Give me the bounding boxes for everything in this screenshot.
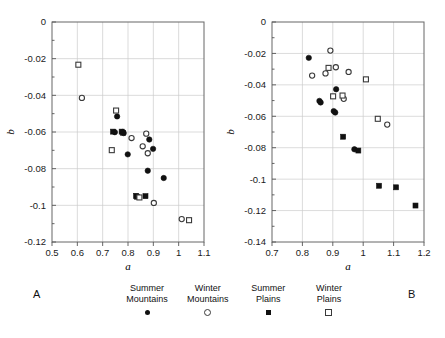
scatter-plot-panel-b: 0.70.80.911.11.20-0.02-0.04-0.06-0.08-0.… bbox=[222, 0, 445, 275]
filled-circle-glyph-icon bbox=[145, 310, 150, 315]
figure-container: 0.50.60.70.80.911.10-0.02-0.04-0.06-0.08… bbox=[0, 0, 445, 338]
data-point bbox=[394, 185, 399, 190]
x-tick-label: 0.9 bbox=[326, 247, 339, 258]
legend-entry: WinterPlains bbox=[300, 283, 358, 317]
data-point bbox=[375, 116, 380, 121]
data-point bbox=[377, 183, 382, 188]
legend-label-line2: Plains bbox=[256, 294, 281, 305]
x-tick-label: 1.2 bbox=[417, 247, 430, 258]
data-point bbox=[385, 122, 390, 127]
x-tick-label: 0.8 bbox=[121, 247, 134, 258]
data-point bbox=[333, 87, 338, 92]
data-point bbox=[323, 71, 328, 76]
legend-label-line1: Summer bbox=[130, 283, 164, 294]
legend-label-line1: Summer bbox=[251, 283, 285, 294]
y-tick-label: -0.12 bbox=[244, 205, 266, 216]
data-point bbox=[346, 69, 351, 74]
x-tick-label: 0.8 bbox=[296, 247, 309, 258]
data-point bbox=[179, 216, 184, 221]
figure-legend: SummerMountainsWinterMountainsSummerPlai… bbox=[118, 283, 358, 317]
x-axis-title: a bbox=[125, 260, 131, 272]
legend-label-line2: Plains bbox=[317, 294, 342, 305]
data-point bbox=[340, 93, 345, 98]
data-point bbox=[187, 218, 192, 223]
data-point bbox=[114, 114, 119, 119]
filled-square-glyph-icon bbox=[266, 310, 271, 315]
data-point bbox=[145, 151, 150, 156]
legend-label-line2: Mountains bbox=[187, 294, 229, 305]
data-point bbox=[109, 148, 114, 153]
y-axis-title: b bbox=[4, 129, 16, 135]
data-point bbox=[356, 148, 361, 153]
x-tick-label: 0.9 bbox=[147, 247, 160, 258]
data-point bbox=[333, 110, 338, 115]
x-tick-label: 0.6 bbox=[71, 247, 84, 258]
data-point bbox=[76, 62, 81, 67]
data-point bbox=[341, 134, 346, 139]
legend-entry: SummerMountains bbox=[118, 283, 176, 317]
series-winter-plains bbox=[76, 62, 192, 222]
y-tick-label: -0.08 bbox=[24, 163, 46, 174]
legend-label-line1: Winter bbox=[195, 283, 221, 294]
data-point bbox=[151, 200, 156, 205]
data-point bbox=[140, 144, 145, 149]
series-summer-mountains bbox=[112, 114, 166, 181]
open-circle-glyph-icon bbox=[204, 309, 211, 316]
data-point bbox=[79, 95, 84, 100]
legend-marker-filled-circle-icon bbox=[142, 307, 152, 317]
x-tick-label: 0.7 bbox=[96, 247, 109, 258]
data-point bbox=[137, 195, 142, 200]
y-tick-label: -0.02 bbox=[24, 53, 46, 64]
x-tick-label: 1.1 bbox=[197, 247, 210, 258]
y-tick-label: -0.1 bbox=[30, 200, 46, 211]
y-tick-label: 0 bbox=[261, 16, 266, 27]
plot-b-svg: 0.70.80.911.11.20-0.02-0.04-0.06-0.08-0.… bbox=[222, 0, 445, 275]
data-point bbox=[129, 135, 134, 140]
scatter-plot-panel-a: 0.50.60.70.80.911.10-0.02-0.04-0.06-0.08… bbox=[0, 0, 222, 275]
data-point bbox=[331, 94, 336, 99]
series-winter-mountains bbox=[79, 95, 184, 221]
data-point bbox=[326, 65, 331, 70]
x-tick-label: 0.7 bbox=[265, 247, 278, 258]
y-tick-label: -0.14 bbox=[244, 236, 266, 247]
data-point bbox=[413, 203, 418, 208]
x-axis-title: a bbox=[345, 260, 351, 272]
data-point bbox=[328, 48, 333, 53]
data-point bbox=[147, 137, 152, 142]
legend-marker-open-circle-icon bbox=[203, 307, 213, 317]
y-axis-title: b bbox=[224, 129, 236, 135]
y-tick-label: 0 bbox=[41, 16, 46, 27]
open-square-glyph-icon bbox=[325, 309, 332, 316]
data-point bbox=[145, 168, 150, 173]
legend-marker-filled-square-icon bbox=[263, 307, 273, 317]
x-tick-label: 1 bbox=[176, 247, 181, 258]
series-winter-mountains bbox=[310, 48, 390, 127]
data-point bbox=[144, 131, 149, 136]
data-point bbox=[318, 100, 323, 105]
legend-label-line1: Winter bbox=[316, 283, 342, 294]
data-point bbox=[125, 152, 130, 157]
y-tick-label: -0.12 bbox=[24, 236, 46, 247]
data-point bbox=[333, 65, 338, 70]
legend-label-line2: Mountains bbox=[126, 294, 168, 305]
panel-label-b: B bbox=[408, 288, 415, 300]
x-tick-label: 1 bbox=[361, 247, 366, 258]
x-tick-label: 1.1 bbox=[387, 247, 400, 258]
legend-entry: SummerPlains bbox=[239, 283, 297, 317]
data-point bbox=[306, 55, 311, 60]
y-tick-label: -0.06 bbox=[244, 111, 266, 122]
panel-label-a: A bbox=[33, 288, 40, 300]
y-tick-label: -0.1 bbox=[250, 174, 266, 185]
data-point bbox=[143, 194, 148, 199]
legend-marker-open-square-icon bbox=[324, 307, 334, 317]
y-tick-label: -0.04 bbox=[24, 90, 46, 101]
plot-a-svg: 0.50.60.70.80.911.10-0.02-0.04-0.06-0.08… bbox=[0, 0, 222, 275]
y-tick-label: -0.08 bbox=[244, 142, 266, 153]
data-point bbox=[150, 146, 155, 151]
y-tick-label: -0.02 bbox=[244, 48, 266, 59]
x-tick-label: 0.5 bbox=[45, 247, 58, 258]
data-point bbox=[121, 130, 126, 135]
series-summer-plains bbox=[341, 134, 418, 208]
data-point bbox=[111, 129, 116, 134]
legend-entry: WinterMountains bbox=[179, 283, 237, 317]
